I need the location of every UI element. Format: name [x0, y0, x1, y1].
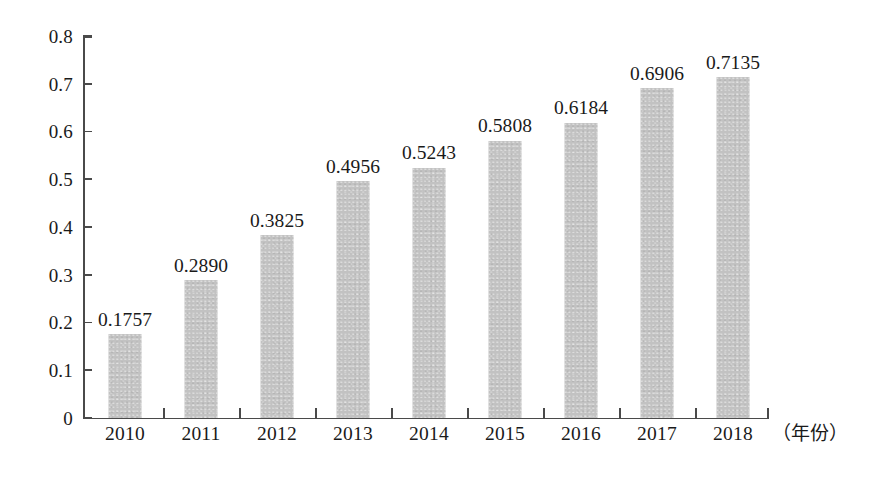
- y-axis-tick-label: 0.4: [49, 217, 73, 236]
- x-axis-end-cap: [767, 408, 769, 418]
- y-axis-tick-label: 0.5: [49, 170, 73, 189]
- bar-value-label: 0.4956: [326, 157, 380, 177]
- bar-value-label: 0.1757: [98, 310, 152, 330]
- x-axis-tick: [239, 408, 241, 418]
- bar: 0.7135: [717, 77, 750, 418]
- y-axis-tick: 0.8: [83, 35, 92, 37]
- x-axis-category-label: 2011: [163, 424, 239, 444]
- x-axis-tick: [391, 408, 393, 418]
- y-axis-tick: 0: [83, 417, 92, 419]
- bar: 0.2890: [185, 280, 218, 418]
- x-axis-title: （年份）: [772, 424, 848, 443]
- bar: 0.1757: [109, 334, 142, 418]
- x-axis-category-label: 2016: [543, 424, 619, 444]
- y-axis-tick: 0.7: [83, 83, 92, 85]
- x-axis-tick: [467, 408, 469, 418]
- bar: 0.5243: [413, 168, 446, 418]
- x-axis-category-label: 2010: [87, 424, 163, 444]
- bar: 0.6184: [565, 123, 598, 418]
- y-axis-tick-label: 0.3: [49, 265, 73, 284]
- x-axis-category-label: 2012: [239, 424, 315, 444]
- y-axis-tick-label: 0.1: [49, 361, 73, 380]
- bar: 0.6906: [641, 88, 674, 418]
- y-axis-tick: 0.4: [83, 226, 92, 228]
- y-axis-tick: 0.3: [83, 274, 92, 276]
- bar-value-label: 0.7135: [706, 53, 760, 73]
- bar-chart: 00.10.20.30.40.50.60.70.8 0.17570.28900.…: [0, 0, 882, 488]
- bar-value-label: 0.6906: [630, 64, 684, 84]
- y-axis-tick-label: 0.2: [49, 313, 73, 332]
- x-axis-tick: [695, 408, 697, 418]
- x-axis-tick: [619, 408, 621, 418]
- y-axis-tick-label: 0.8: [49, 26, 73, 45]
- x-axis-category-label: 2018: [695, 424, 771, 444]
- bar: 0.4956: [337, 181, 370, 418]
- bar-value-label: 0.5808: [478, 116, 532, 136]
- x-axis-tick: [163, 408, 165, 418]
- x-axis-tick: [315, 408, 317, 418]
- bar: 0.5808: [489, 141, 522, 418]
- y-axis-tick: 0.5: [83, 178, 92, 180]
- bar-value-label: 0.2890: [174, 256, 228, 276]
- bar-value-label: 0.5243: [402, 143, 456, 163]
- bar-value-label: 0.3825: [250, 211, 304, 231]
- y-axis-tick: 0.6: [83, 131, 92, 133]
- bar-value-label: 0.6184: [554, 98, 608, 118]
- bar: 0.3825: [261, 235, 294, 418]
- y-axis-tick-label: 0.6: [49, 122, 73, 141]
- y-axis-tick-label: 0.7: [49, 74, 73, 93]
- x-axis-category-label: 2013: [315, 424, 391, 444]
- y-axis-tick: 0.2: [83, 322, 92, 324]
- y-axis-tick-label: 0: [63, 408, 73, 427]
- x-axis-tick: [543, 408, 545, 418]
- x-axis-category-label: 2015: [467, 424, 543, 444]
- y-axis-tick: 0.1: [83, 369, 92, 371]
- x-axis-category-label: 2017: [619, 424, 695, 444]
- x-axis-category-label: 2014: [391, 424, 467, 444]
